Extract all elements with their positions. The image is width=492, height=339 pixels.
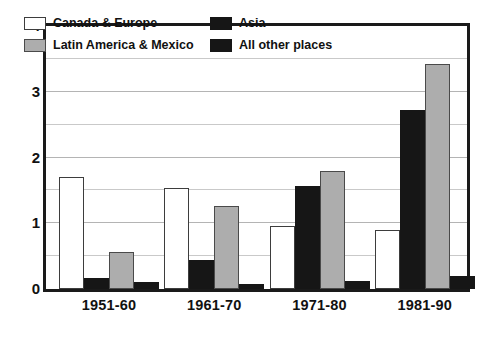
- gridline: [46, 91, 467, 92]
- y-axis-tick-label: 3: [6, 84, 40, 99]
- bar: [425, 64, 450, 289]
- gridline: [46, 58, 467, 59]
- bar: [270, 226, 295, 289]
- bar: [214, 206, 239, 290]
- legend-item: All other places: [210, 39, 332, 52]
- bar: [320, 171, 345, 289]
- bar: [400, 110, 425, 289]
- bar: [239, 284, 264, 289]
- bar-chart: 01234 1951-601961-701971-801981-90 Canad…: [0, 0, 492, 339]
- legend-swatch-icon: [24, 17, 46, 30]
- bar: [189, 260, 214, 289]
- legend-swatch-icon: [210, 39, 232, 52]
- bar: [295, 186, 320, 289]
- y-axis-tick-label: 0: [6, 281, 40, 296]
- legend-item-label: All other places: [239, 39, 332, 52]
- legend-item: Asia: [210, 17, 332, 30]
- bar: [164, 188, 189, 289]
- bar: [450, 276, 475, 289]
- bar: [84, 278, 109, 289]
- legend-item-label: Asia: [239, 17, 265, 30]
- legend-swatch-icon: [210, 17, 232, 30]
- bar: [59, 177, 84, 289]
- x-axis-tick-label: 1981-90: [370, 298, 480, 313]
- y-axis-tick-label: 2: [6, 150, 40, 165]
- legend-item-label: Canada & Europe: [53, 17, 157, 30]
- legend-item-label: Latin America & Mexico: [53, 39, 194, 52]
- legend-item: Latin America & Mexico: [24, 39, 196, 52]
- plot-inner: [46, 26, 467, 289]
- legend-item: Canada & Europe: [24, 17, 196, 30]
- bar: [375, 230, 400, 289]
- x-axis-tick-label: 1951-60: [54, 298, 164, 313]
- x-axis-tick-label: 1971-80: [265, 298, 375, 313]
- plot-area: [43, 23, 470, 292]
- y-axis-tick-label: 1: [6, 215, 40, 230]
- legend-swatch-icon: [24, 39, 46, 52]
- bar: [134, 282, 159, 289]
- bar: [109, 252, 134, 289]
- bar: [345, 281, 370, 289]
- chart-legend: Canada & EuropeAsiaLatin America & Mexic…: [24, 12, 332, 56]
- x-axis-tick-label: 1961-70: [159, 298, 269, 313]
